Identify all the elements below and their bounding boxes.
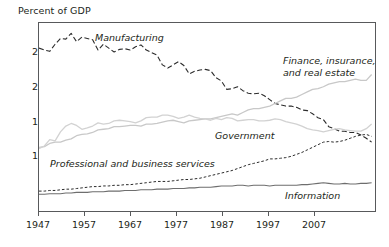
series-line-finance-insurance-and-real-estate	[39, 75, 372, 148]
y-axis-title: Percent of GDP	[18, 5, 91, 16]
series-line-government	[39, 115, 372, 148]
series-label-manufacturing: Manufacturing	[95, 32, 164, 43]
x-tick-label-1977: 1977	[156, 219, 196, 230]
series-label-professional: Professional and business services	[50, 158, 215, 169]
plot-area	[38, 22, 376, 212]
x-tick-label-1957: 1957	[64, 219, 104, 230]
x-tick-label-1997: 1997	[248, 219, 288, 230]
x-tick-label-1967: 1967	[110, 219, 150, 230]
series-label-finance-line1: Finance, insurance,	[283, 55, 376, 66]
series-lines-svg	[39, 23, 377, 213]
x-tick-label-2007: 2007	[294, 219, 334, 230]
series-label-government: Government	[215, 130, 274, 141]
x-tick-label-1947: 1947	[18, 219, 58, 230]
chart-figure: Percent of GDP 25 20 15 10 5 1947 1957 1…	[0, 0, 389, 247]
x-tick-label-1987: 1987	[202, 219, 242, 230]
series-label-finance-line2: and real estate	[283, 67, 355, 78]
series-label-information: Information	[285, 190, 340, 201]
